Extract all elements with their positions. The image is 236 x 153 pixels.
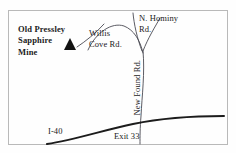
mine-label-line-3: Mine [18, 47, 37, 57]
exit-33-label-text: Exit 33 [114, 131, 140, 141]
mine-label-line-2: Sapphire [18, 35, 52, 45]
i-40-label-text: I-40 [48, 126, 63, 136]
n-hominy-rd-label: N. Hominy Rd. [139, 13, 178, 35]
exit-33-label: Exit 33 [114, 132, 140, 141]
map-figure: Old Pressley Sapphire Mine Willis Cove R… [0, 0, 236, 153]
willis-cove-rd-label: Willis Cove Rd. [89, 28, 122, 50]
old-pressley-sapphire-mine-label: Old Pressley Sapphire Mine [18, 24, 65, 58]
willis-label-line-1: Willis [89, 28, 110, 38]
new-found-rd-label: New Found Rd. [133, 5, 142, 60]
willis-label-line-2: Cove Rd. [89, 39, 122, 49]
new-found-label-text: New Found Rd. [133, 60, 142, 115]
mine-label-line-1: Old Pressley [18, 24, 65, 34]
i-40-label: I-40 [48, 127, 63, 136]
hominy-label-line-1: N. Hominy [139, 13, 178, 23]
